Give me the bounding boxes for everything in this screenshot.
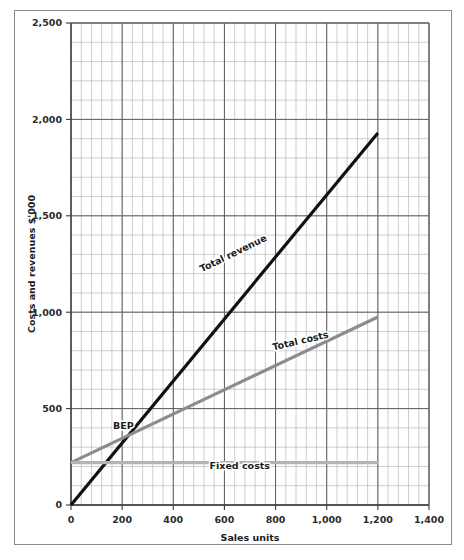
x-tick-label: 1,400 [414, 514, 444, 525]
annotation-label-total-costs: Total costs [271, 329, 330, 353]
y-tick-label: 2,500 [32, 17, 62, 28]
annotation-bep: BEPBEP [113, 420, 134, 431]
x-tick-label: 400 [163, 514, 183, 525]
y-tick-label: 2,000 [32, 114, 62, 125]
x-tick-label: 800 [266, 514, 286, 525]
y-tick-label: 500 [42, 403, 62, 414]
annotation-label-bep: BEP [113, 420, 134, 431]
chart-figure: 02004006008001,0001,2001,40005001,0001,5… [14, 10, 452, 545]
axis-lines [71, 23, 429, 505]
x-tick-label: 1,000 [312, 514, 342, 525]
x-axis-title: Sales units [221, 532, 280, 543]
y-axis-title: Costs and revenues $'000 [26, 195, 37, 333]
axis-ticks [66, 23, 429, 510]
axis-tick-labels: 02004006008001,0001,2001,40005001,0001,5… [32, 17, 444, 525]
minor-gridlines [71, 23, 429, 505]
annotation-total-costs: Total costsTotal costs [271, 329, 330, 353]
annotation-fixed-costs: Fixed costsFixed costs [210, 460, 271, 471]
x-tick-label: 600 [215, 514, 235, 525]
x-tick-label: 0 [68, 514, 75, 525]
major-gridlines [71, 23, 429, 505]
y-tick-label: 0 [55, 499, 62, 510]
series-annotations: Total revenueTotal revenueTotal costsTot… [113, 232, 330, 471]
breakeven-chart: 02004006008001,0001,2001,40005001,0001,5… [15, 11, 451, 544]
annotation-label-fixed-costs: Fixed costs [210, 460, 271, 471]
x-tick-label: 1,200 [363, 514, 393, 525]
annotation-label-total-revenue: Total revenue [198, 232, 268, 274]
x-tick-label: 200 [112, 514, 132, 525]
annotation-total-revenue: Total revenueTotal revenue [198, 232, 268, 274]
